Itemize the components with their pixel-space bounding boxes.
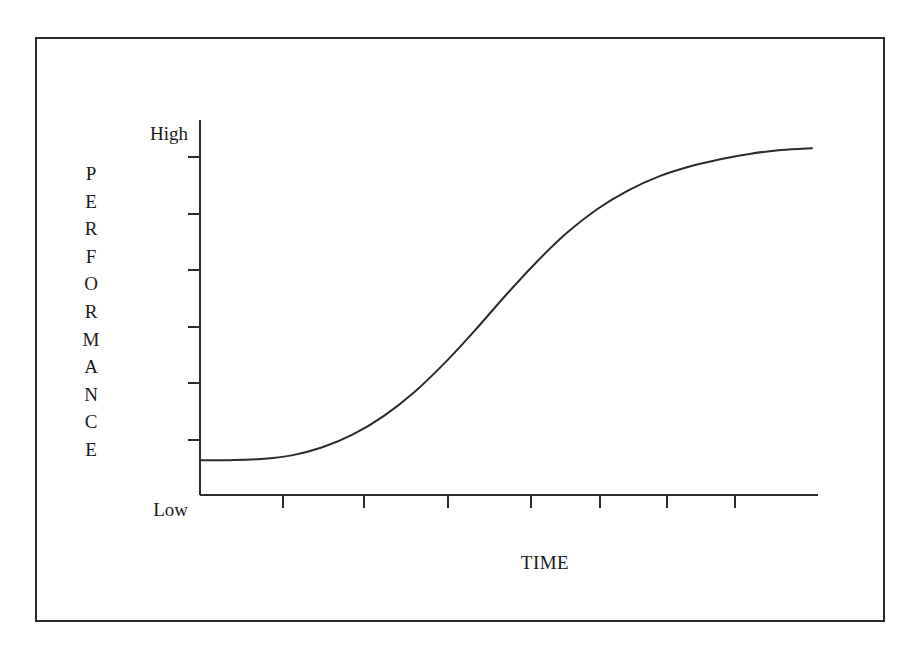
figure-root: PERFORMANCE High Low TIME: [0, 0, 917, 661]
x-axis-title: TIME: [420, 552, 670, 574]
y-axis-title-letter: E: [78, 436, 104, 464]
y-axis-title-letter: A: [78, 353, 104, 381]
y-axis-title-letter: E: [78, 188, 104, 216]
y-axis-low-label: Low: [118, 500, 188, 520]
y-axis-title-letter: M: [78, 326, 104, 354]
y-axis-title-letter: P: [78, 160, 104, 188]
performance-curve: [200, 148, 812, 460]
y-axis-title: PERFORMANCE: [78, 160, 104, 464]
y-axis-title-letter: C: [78, 408, 104, 436]
y-axis-title-letter: R: [78, 215, 104, 243]
y-axis-title-letter: N: [78, 381, 104, 409]
y-axis-title-letter: R: [78, 298, 104, 326]
y-axis-title-letter: O: [78, 270, 104, 298]
y-axis-high-label: High: [118, 124, 188, 144]
x-axis-ticks: [283, 494, 735, 508]
y-axis-title-letter: F: [78, 243, 104, 271]
